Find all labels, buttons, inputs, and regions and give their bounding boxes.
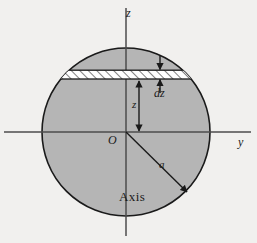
z-axis-label: z — [126, 7, 131, 19]
dz-thickness-label: dz — [154, 87, 165, 99]
y-axis-label: y — [238, 136, 243, 148]
origin-label: O — [108, 134, 117, 146]
diagram-canvas — [0, 0, 257, 243]
sphere-disk-element-figure: z y O dz z a Axis — [0, 0, 257, 243]
z-height-label: z — [132, 99, 136, 110]
axis-caption-label: Axis — [119, 190, 145, 203]
radius-label: a — [159, 159, 165, 170]
